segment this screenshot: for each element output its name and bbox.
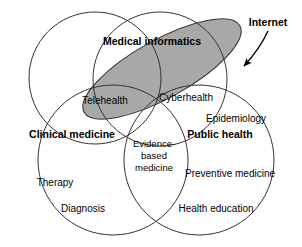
label-therapy: Therapy (37, 177, 74, 188)
label-evidence-based-medicine-line2: based (141, 150, 167, 161)
label-public-health: Public health (187, 128, 252, 140)
label-epidemiology: Epidemiology (206, 113, 266, 124)
label-clinical-medicine: Clinical medicine (29, 128, 115, 140)
internet-arrow-icon (244, 31, 268, 66)
label-internet: Internet (249, 16, 288, 28)
venn-diagram-canvas: Medical informatics Internet Telehealth … (0, 0, 302, 247)
internet-arrow-group (244, 31, 268, 66)
label-diagnosis: Diagnosis (61, 203, 105, 214)
label-health-education: Health education (178, 203, 253, 214)
venn-diagram-figure: Medical informatics Internet Telehealth … (0, 0, 302, 247)
label-evidence-based-medicine-line3: medicine (135, 162, 173, 173)
label-telehealth: Telehealth (82, 95, 128, 106)
label-medical-informatics: Medical informatics (103, 35, 201, 47)
label-preventive-medicine: Preventive medicine (185, 168, 275, 179)
label-cyberhealth: Cyberhealth (159, 92, 213, 103)
label-evidence-based-medicine-line1: Evidence- (133, 138, 175, 149)
